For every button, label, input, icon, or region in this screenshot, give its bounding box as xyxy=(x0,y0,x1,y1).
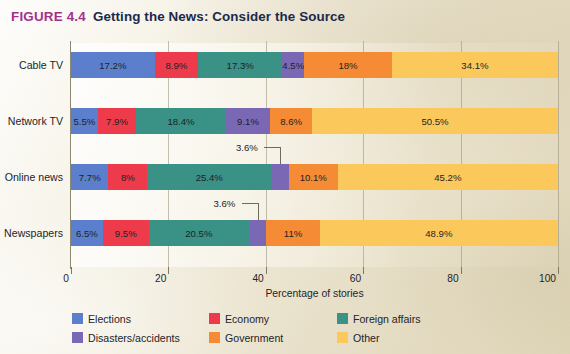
callout-leader-vertical xyxy=(258,203,259,220)
bar-segment[interactable] xyxy=(249,220,267,246)
chart-legend: ElectionsEconomyForeign affairsDisasters… xyxy=(72,309,492,347)
bar-row: Online news7.7%8%25.4%10.1%45.2% xyxy=(71,164,558,190)
bar-segment[interactable]: 6.5% xyxy=(71,220,103,246)
x-axis: 020406080100 xyxy=(71,267,558,289)
x-axis-tick-label: 0 xyxy=(63,273,69,284)
legend-row: Disasters/accidentsGovernmentOther xyxy=(72,328,492,347)
page-title: Getting the News: Consider the Source xyxy=(93,9,345,24)
legend-item[interactable]: Elections xyxy=(72,313,209,325)
bar-track: 17.2%8.9%17.3%4.5%18%34.1% xyxy=(71,52,558,78)
figure-number: FIGURE 4.4 xyxy=(11,9,86,24)
bar-segment[interactable]: 50.5% xyxy=(312,108,558,134)
bar-row: Newspapers6.5%9.5%20.5%11%48.9% xyxy=(71,220,558,246)
bar-segment[interactable]: 10.1% xyxy=(289,164,338,190)
x-axis-tick xyxy=(461,267,462,274)
legend-label: Economy xyxy=(225,313,269,325)
bar-segment[interactable]: 4.5% xyxy=(282,52,304,78)
category-label: Network TV xyxy=(8,115,63,127)
bar-track: 7.7%8%25.4%10.1%45.2% xyxy=(71,164,558,190)
legend-label: Elections xyxy=(88,313,131,325)
callout-leader-vertical xyxy=(280,147,281,164)
callout-label: 3.6% xyxy=(214,198,236,209)
legend-swatch-icon xyxy=(72,313,83,324)
figure-page: FIGURE 4.4Getting the News: Consider the… xyxy=(0,0,570,354)
bar-segment[interactable]: 8.9% xyxy=(155,52,198,78)
bar-segment[interactable]: 34.1% xyxy=(392,52,558,78)
legend-label: Government xyxy=(225,332,283,344)
legend-swatch-icon xyxy=(209,332,220,343)
legend-item[interactable]: Government xyxy=(209,332,337,344)
legend-label: Disasters/accidents xyxy=(88,332,180,344)
bar-row: Network TV5.5%7.9%18.4%9.1%8.6%50.5% xyxy=(71,108,558,134)
x-axis-tick xyxy=(168,267,169,274)
legend-swatch-icon xyxy=(337,332,348,343)
x-axis-tick-label: 20 xyxy=(155,273,166,284)
bar-segment[interactable]: 5.5% xyxy=(71,108,98,134)
bar-segment[interactable]: 25.4% xyxy=(147,164,271,190)
legend-swatch-icon xyxy=(337,313,348,324)
legend-item[interactable]: Disasters/accidents xyxy=(72,332,209,344)
bar-segment[interactable]: 48.9% xyxy=(320,220,558,246)
x-axis-tick xyxy=(266,267,267,274)
gridline-100 xyxy=(558,41,559,269)
legend-swatch-icon xyxy=(72,332,83,343)
chart-plot-area: Cable TV17.2%8.9%17.3%4.5%18%34.1%Networ… xyxy=(71,43,558,267)
legend-row: ElectionsEconomyForeign affairs xyxy=(72,309,492,328)
bar-track: 6.5%9.5%20.5%11%48.9% xyxy=(71,220,558,246)
bar-segment[interactable]: 9.1% xyxy=(226,108,270,134)
x-axis-tick xyxy=(363,267,364,274)
x-axis-tick-label: 40 xyxy=(252,273,263,284)
bar-segment[interactable]: 7.7% xyxy=(71,164,108,190)
bar-segment[interactable]: 18.4% xyxy=(136,108,226,134)
category-label: Newspapers xyxy=(4,227,63,239)
callout-leader-horizontal xyxy=(264,147,280,148)
x-axis-tick xyxy=(558,267,559,274)
callout-leader-horizontal xyxy=(242,203,258,204)
callout-label: 3.6% xyxy=(236,142,258,153)
legend-label: Other xyxy=(353,332,380,344)
x-axis-tick-label: 60 xyxy=(350,273,361,284)
x-axis-tick-label: 100 xyxy=(539,273,556,284)
bar-segment[interactable]: 17.3% xyxy=(198,52,282,78)
bar-track: 5.5%7.9%18.4%9.1%8.6%50.5% xyxy=(71,108,558,134)
legend-label: Foreign affairs xyxy=(353,313,421,325)
legend-item[interactable]: Other xyxy=(337,332,477,344)
bar-segment[interactable]: 9.5% xyxy=(103,220,149,246)
bar-row: Cable TV17.2%8.9%17.3%4.5%18%34.1% xyxy=(71,52,558,78)
legend-swatch-icon xyxy=(209,313,220,324)
bar-segment[interactable]: 17.2% xyxy=(71,52,155,78)
bar-segment[interactable] xyxy=(271,164,289,190)
category-label: Online news xyxy=(5,171,63,183)
category-label: Cable TV xyxy=(19,59,63,71)
x-axis-tick xyxy=(71,267,72,274)
figure-caption: FIGURE 4.4Getting the News: Consider the… xyxy=(11,7,345,25)
bar-segment[interactable]: 45.2% xyxy=(338,164,558,190)
x-axis-tick-label: 80 xyxy=(447,273,458,284)
bar-segment[interactable]: 11% xyxy=(266,220,320,246)
legend-item[interactable]: Foreign affairs xyxy=(337,313,477,325)
bar-segment[interactable]: 8% xyxy=(108,164,147,190)
bar-segment[interactable]: 7.9% xyxy=(98,108,136,134)
bar-segment[interactable]: 20.5% xyxy=(149,220,249,246)
bar-segment[interactable]: 18% xyxy=(304,52,392,78)
x-axis-title: Percentage of stories xyxy=(71,288,558,299)
legend-item[interactable]: Economy xyxy=(209,313,337,325)
bar-segment[interactable]: 8.6% xyxy=(270,108,312,134)
